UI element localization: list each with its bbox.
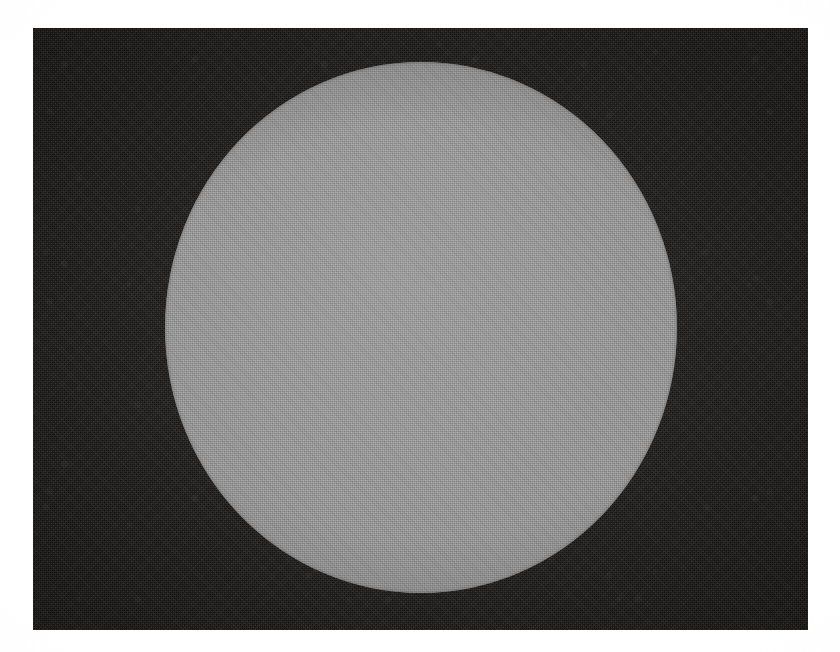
- bright-disc: [165, 62, 677, 593]
- disc-shading-overlay: [165, 62, 677, 593]
- disc-limb-edge: [165, 62, 677, 593]
- disc-halftone-texture: [165, 62, 677, 593]
- figure-page: [0, 0, 840, 652]
- dark-exposure-field: [33, 28, 808, 630]
